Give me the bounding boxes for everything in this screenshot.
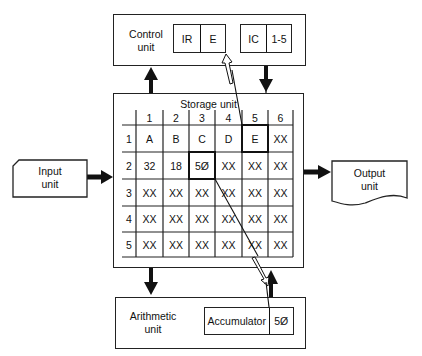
data-flow-lines: [0, 0, 422, 356]
fetch-instruction-arrow: [222, 54, 242, 125]
load-accumulator-arrow: [215, 179, 269, 307]
